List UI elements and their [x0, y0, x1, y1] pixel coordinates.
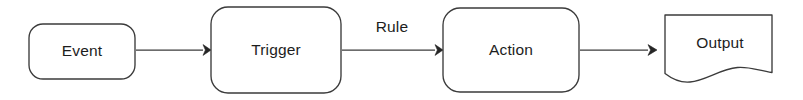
arrowhead-icon — [648, 45, 657, 56]
edge-trigger-to-action: Rule — [342, 18, 443, 55]
arrowhead-icon — [435, 45, 443, 56]
node-event[interactable]: Event — [29, 24, 135, 79]
edge-label-rule: Rule — [376, 18, 408, 35]
node-trigger-label: Trigger — [251, 41, 301, 58]
node-action-label: Action — [489, 41, 533, 58]
flow-diagram-svg: Rule Event Trigger Action Output — [0, 0, 803, 100]
arrowhead-icon — [203, 45, 211, 56]
edge-action-to-output — [580, 45, 657, 56]
node-event-label: Event — [62, 42, 103, 59]
node-output[interactable]: Output — [665, 15, 772, 82]
node-output-label: Output — [696, 34, 744, 51]
flow-diagram-canvas: Rule Event Trigger Action Output — [0, 0, 803, 100]
node-action[interactable]: Action — [443, 8, 579, 92]
edge-event-to-trigger — [136, 45, 211, 56]
node-trigger[interactable]: Trigger — [211, 7, 341, 93]
